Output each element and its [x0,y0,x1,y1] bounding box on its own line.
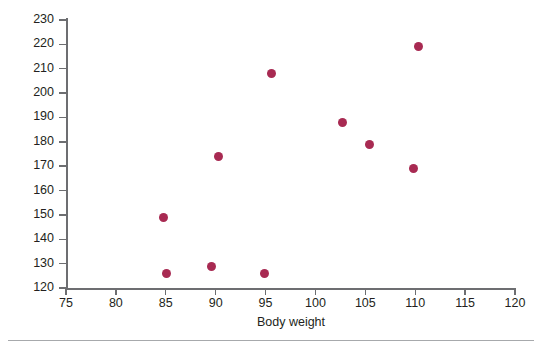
y-tick-mark [59,165,66,166]
y-tick-label: 220 [33,37,54,50]
footer-divider [8,340,534,341]
y-tick-label: 180 [33,135,54,148]
y-tick-mark [59,239,66,240]
x-tick-mark [415,288,416,295]
y-tick-mark [59,44,66,45]
y-tick-label: 190 [33,110,54,123]
y-tick-label: 230 [33,13,54,26]
y-tick-mark [59,214,66,215]
x-tick-mark [315,288,316,295]
x-axis-line [66,288,516,290]
data-point [260,269,269,278]
y-tick-mark [59,19,66,20]
x-tick-mark [165,288,166,295]
x-axis-title: Body weight [66,315,516,329]
data-point [207,262,216,271]
y-tick-label: 150 [33,208,54,221]
y-tick-label: 200 [33,86,54,99]
x-tick-mark [365,288,366,295]
y-tick-mark [59,68,66,69]
x-tick-mark [115,288,116,295]
x-tick-mark [464,288,465,295]
x-tick-mark [215,288,216,295]
y-tick-mark [59,92,66,93]
y-tick-label: 210 [33,62,54,75]
x-tick-label: 120 [485,297,542,310]
data-point [214,152,223,161]
y-tick-label: 170 [33,159,54,172]
y-tick-label: 130 [33,257,54,270]
x-tick-mark [65,288,66,295]
y-tick-label: 160 [33,184,54,197]
x-tick-mark [265,288,266,295]
data-point [338,118,347,127]
y-tick-label: 140 [33,232,54,245]
scatter-plot-figure: 120130140150160170180190200210220230 758… [0,0,542,349]
data-point [365,140,374,149]
y-tick-mark [59,263,66,264]
y-tick-mark [59,117,66,118]
data-point [409,164,418,173]
y-tick-mark [59,190,66,191]
y-tick-label: 120 [33,281,54,294]
y-tick-mark [59,141,66,142]
plot-area [66,20,515,288]
data-point [414,42,423,51]
x-tick-mark [514,288,515,295]
